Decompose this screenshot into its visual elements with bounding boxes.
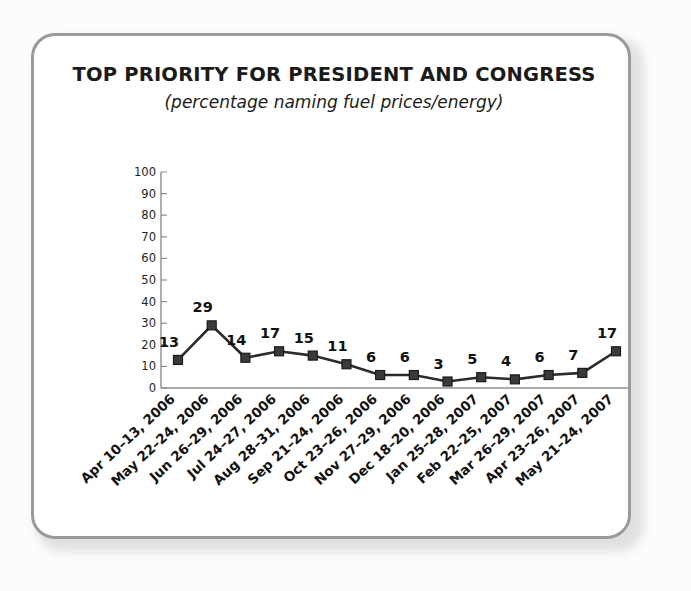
chart-page: TOP PRIORITY FOR PRESIDENT AND CONGRESS … <box>0 0 691 591</box>
data-point-marker <box>342 360 351 369</box>
data-point-label: 29 <box>193 299 213 315</box>
x-tick-label-group: Apr 10–13, 2006May 22–24, 2006Jun 26–29,… <box>77 390 616 489</box>
data-point-label: 7 <box>568 347 578 363</box>
data-point-marker <box>409 371 418 380</box>
data-point-label: 6 <box>535 349 545 365</box>
data-point-marker <box>612 347 621 356</box>
data-point-label: 6 <box>366 349 376 365</box>
data-point-marker <box>308 351 317 360</box>
data-point-marker <box>275 347 284 356</box>
data-point-label: 13 <box>159 334 179 350</box>
y-tick-label: 10 <box>141 359 156 373</box>
data-point-label: 14 <box>226 332 246 348</box>
data-point-label: 11 <box>327 338 347 354</box>
data-point-marker <box>544 371 553 380</box>
data-point-marker <box>443 377 452 386</box>
data-point-label: 15 <box>294 330 314 346</box>
y-tick-label: 30 <box>141 316 156 330</box>
y-tick-label: 90 <box>141 187 156 201</box>
y-tick-label: 100 <box>134 165 156 179</box>
y-tick-label: 60 <box>141 251 156 265</box>
data-point-label: 5 <box>467 351 477 367</box>
y-tick-group: 1009080706050403020100 <box>134 165 167 395</box>
line-chart-svg: 1009080706050403020100 13291417151166354… <box>34 36 631 539</box>
data-point-marker <box>241 353 250 362</box>
y-tick-label: 70 <box>141 230 156 244</box>
data-point-label: 4 <box>501 353 511 369</box>
data-point-marker <box>578 368 587 377</box>
y-tick-label: 80 <box>141 208 156 222</box>
data-point-marker <box>207 321 216 330</box>
y-tick-label: 0 <box>149 381 156 395</box>
data-point-label: 17 <box>260 325 280 341</box>
data-label-group: 132914171511663546717 <box>159 299 617 371</box>
data-point-label: 6 <box>400 349 410 365</box>
data-point-marker <box>174 355 183 364</box>
chart-panel: TOP PRIORITY FOR PRESIDENT AND CONGRESS … <box>31 33 631 539</box>
data-point-label: 17 <box>597 325 617 341</box>
y-tick-label: 40 <box>141 295 156 309</box>
data-point-marker <box>477 373 486 382</box>
y-tick-label: 50 <box>141 273 156 287</box>
plot-area: 1009080706050403020100 13291417151166354… <box>34 36 631 539</box>
data-point-marker <box>376 371 385 380</box>
y-tick-label: 20 <box>141 338 156 352</box>
data-point-label: 3 <box>433 356 443 372</box>
data-point-marker <box>510 375 519 384</box>
